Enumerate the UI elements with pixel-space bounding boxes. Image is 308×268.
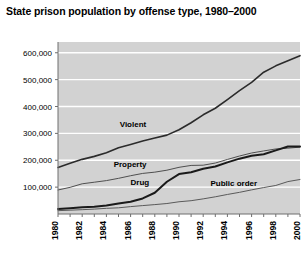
x-tick-label: 1982 [74, 221, 84, 240]
x-tick-label: 1994 [219, 221, 229, 240]
series-label-drug: Drug [131, 178, 150, 187]
plot-bg-rect [58, 42, 300, 214]
y-tick-label: 100,000 [23, 183, 52, 192]
line-chart-svg: 100,000200,000300,000400,000500,000600,0… [0, 22, 308, 268]
y-tick-label: 500,000 [23, 76, 52, 85]
plot-area: 100,000200,000300,000400,000500,000600,0… [0, 22, 308, 268]
x-tick-label: 1980 [50, 221, 60, 240]
series-label-public-order: Public order [210, 179, 257, 188]
x-tick-label: 1988 [147, 221, 157, 240]
x-axis-tick-labels: 1980198219841986198819901992199419961998… [50, 221, 302, 240]
series-label-violent: Violent [120, 120, 147, 129]
series-label-property: Property [114, 160, 147, 169]
x-tick-label: 1986 [123, 221, 133, 240]
x-tick-label: 2000 [292, 221, 302, 240]
y-tick-label: 300,000 [23, 129, 52, 138]
chart-figure: State prison population by offense type,… [0, 0, 308, 268]
x-tick-label: 1992 [195, 221, 205, 240]
plot-background [58, 42, 300, 214]
y-tick-label: 600,000 [23, 49, 52, 58]
x-tick-label: 1998 [268, 221, 278, 240]
x-tick-label: 1990 [171, 221, 181, 240]
y-tick-label: 400,000 [23, 103, 52, 112]
y-tick-label: 200,000 [23, 156, 52, 165]
x-tick-label: 1996 [244, 221, 254, 240]
chart-title: State prison population by offense type,… [6, 5, 257, 17]
y-axis-tick-labels: 100,000200,000300,000400,000500,000600,0… [23, 49, 52, 192]
x-tick-label: 1984 [98, 221, 108, 240]
